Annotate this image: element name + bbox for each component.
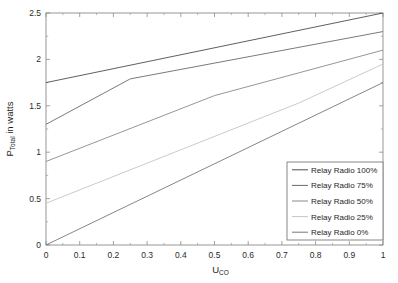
y-tick-label: 1 (36, 147, 41, 157)
x-tick-label: 0.7 (276, 250, 288, 260)
x-tick-label: 1 (381, 250, 386, 260)
x-tick-label: 0 (44, 250, 49, 260)
y-tick-label: 1.5 (29, 101, 41, 111)
figure-container: 00.10.20.30.40.50.60.70.80.9100.511.522.… (0, 0, 398, 283)
x-tick-label: 0.9 (343, 250, 355, 260)
y-tick-label: 2 (36, 54, 41, 64)
x-tick-label: 0.3 (141, 250, 153, 260)
x-tick-label: 0.1 (74, 250, 86, 260)
y-tick-label: 0 (36, 240, 41, 250)
x-axis-title: UCO (212, 264, 229, 276)
legend: Relay Radio 100%Relay Radio 75%Relay Rad… (287, 162, 383, 240)
y-tick-label: 0.5 (29, 194, 41, 204)
y-axis-title: PTotal in watts (4, 101, 16, 156)
x-tick-label: 0.6 (242, 250, 254, 260)
x-tick-label: 0.5 (209, 250, 221, 260)
x-tick-label: 0.2 (107, 250, 119, 260)
legend-label: Relay Radio 0% (311, 228, 368, 237)
x-tick-label: 0.4 (175, 250, 187, 260)
legend-label: Relay Radio 100% (311, 166, 377, 175)
legend-label: Relay Radio 25% (311, 213, 373, 222)
legend-label: Relay Radio 50% (311, 197, 373, 206)
y-tick-label: 2.5 (29, 8, 41, 18)
line-chart: 00.10.20.30.40.50.60.70.80.9100.511.522.… (0, 0, 398, 283)
x-tick-label: 0.8 (310, 250, 322, 260)
legend-label: Relay Radio 75% (311, 181, 373, 190)
